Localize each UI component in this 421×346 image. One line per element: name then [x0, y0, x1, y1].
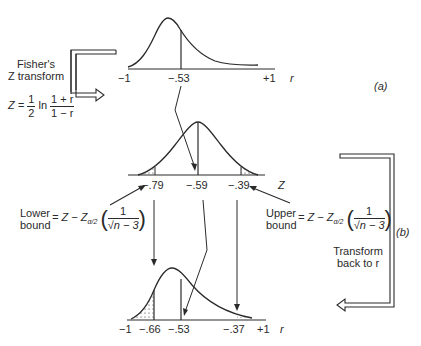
formula-lhs: Z = — [8, 99, 24, 111]
fisher-transform-arrow — [71, 50, 116, 101]
transform-back-line2: back to r — [328, 257, 388, 270]
panel-a-label: (a) — [374, 80, 387, 93]
top-tick-r-point: −.53 — [168, 72, 190, 85]
transform-back-arrow — [337, 154, 394, 311]
formula-half: 1 2 — [27, 93, 35, 120]
mid-tick-center: −.59 — [186, 179, 208, 192]
bot-axis-variable: r — [280, 323, 284, 336]
top-axis-variable: r — [290, 72, 294, 85]
bot-tick-minus1: −1 — [119, 323, 132, 336]
formula-ratio: 1 + r 1 − r — [50, 93, 74, 120]
fisher-label-line2: Z transform — [6, 70, 66, 83]
lower-bound-arrow — [110, 185, 146, 205]
lower-bound-formula: = Z − Zα/2 (1√n − 3) — [52, 205, 146, 232]
upper-bound-line2: bound — [266, 219, 297, 232]
lower-bound-line2: bound — [20, 219, 51, 232]
top-tick-minus1: −1 — [118, 72, 131, 85]
middle-z-distribution — [128, 122, 265, 175]
bot-tick-upper: −.37 — [223, 323, 245, 336]
panel-b-label: (b) — [396, 226, 409, 239]
mid-axis-variable: Z — [278, 179, 285, 192]
bot-tick-lower: −.66 — [139, 323, 161, 336]
back-transform-arrows — [151, 200, 240, 316]
mid-tick-lower: −.79 — [142, 179, 164, 192]
formula-ln: ln — [38, 99, 47, 111]
arrow-r-to-z — [175, 86, 197, 171]
top-tick-plus1: +1 — [263, 72, 276, 85]
bot-tick-plus1: +1 — [257, 323, 270, 336]
bot-tick-r: −.53 — [168, 323, 190, 336]
fisher-formula: Z = 1 2 ln 1 + r 1 − r — [8, 93, 74, 120]
bottom-r-distribution — [127, 268, 266, 320]
upper-bound-formula: = Z − Zα/2 (1√n − 3) — [298, 205, 392, 232]
mid-tick-upper: −.39 — [228, 179, 250, 192]
diagram-canvas — [0, 0, 421, 346]
top-r-distribution — [128, 18, 275, 69]
